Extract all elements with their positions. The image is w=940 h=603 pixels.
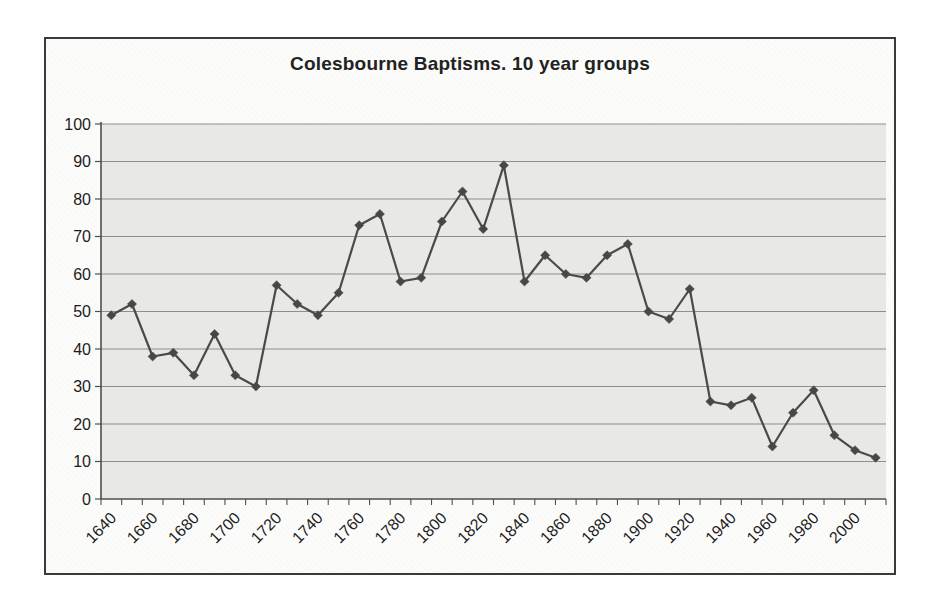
y-axis-tick-label: 50 <box>73 303 91 320</box>
y-axis-tick-label: 40 <box>73 341 91 358</box>
x-axis-tick-label: 1800 <box>413 509 450 546</box>
x-axis-tick-label: 1900 <box>619 509 656 546</box>
x-axis-tick-label: 1860 <box>537 509 574 546</box>
plot-area: 0102030405060708090100164016601680170017… <box>46 39 894 573</box>
x-axis-tick-label: 1780 <box>371 509 408 546</box>
page: Colesbourne Baptisms. 10 year groups 010… <box>0 0 940 603</box>
y-axis-tick-label: 70 <box>73 228 91 245</box>
y-axis-tick-label: 100 <box>64 116 91 133</box>
x-axis-tick-label: 1920 <box>661 509 698 546</box>
y-axis-tick-label: 80 <box>73 191 91 208</box>
x-axis-tick-label: 1960 <box>743 509 780 546</box>
x-axis-tick-label: 1700 <box>206 509 243 546</box>
y-axis-tick-label: 60 <box>73 266 91 283</box>
y-axis-tick-label: 90 <box>73 153 91 170</box>
x-axis-tick-label: 1940 <box>702 509 739 546</box>
x-axis-tick-label: 1840 <box>495 509 532 546</box>
x-axis-tick-label: 1740 <box>289 509 326 546</box>
x-axis-tick-label: 1760 <box>330 509 367 546</box>
x-axis-tick-label: 1660 <box>124 509 161 546</box>
x-axis-tick-label: 1980 <box>785 509 822 546</box>
chart-frame: Colesbourne Baptisms. 10 year groups 010… <box>44 37 896 575</box>
y-axis-tick-label: 10 <box>73 453 91 470</box>
y-axis-tick-label: 0 <box>82 491 91 508</box>
y-axis-tick-label: 30 <box>73 378 91 395</box>
x-axis-tick-label: 1720 <box>248 509 285 546</box>
x-axis-tick-label: 1680 <box>165 509 202 546</box>
x-axis-tick-label: 1820 <box>454 509 491 546</box>
x-axis-tick-label: 2000 <box>826 509 863 546</box>
y-axis-tick-label: 20 <box>73 416 91 433</box>
x-axis-tick-label: 1640 <box>82 509 119 546</box>
x-axis-tick-label: 1880 <box>578 509 615 546</box>
